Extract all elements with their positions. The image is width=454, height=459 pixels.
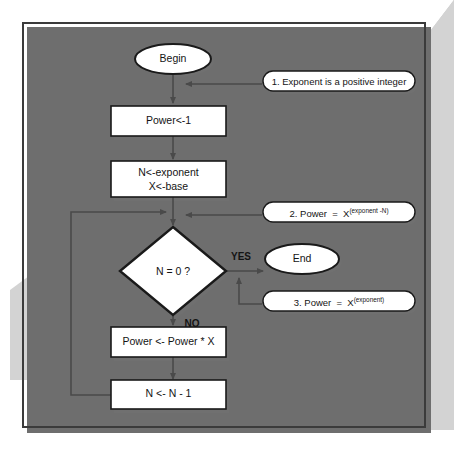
note-3-capsule [263,291,415,311]
node-power-mul [111,327,226,357]
flowchart-page: Begin Power<-1 N<-exponent X<-base N = 0… [0,0,454,459]
node-decrement [111,380,226,409]
shape-shadows [114,47,418,413]
flowchart-canvas [0,0,454,459]
note-1-capsule [263,71,415,91]
node-begin [135,44,211,74]
note-2-capsule [263,202,415,222]
node-decision [120,227,226,315]
node-power-init [111,106,226,136]
node-end [265,244,339,274]
node-assign [111,161,226,197]
